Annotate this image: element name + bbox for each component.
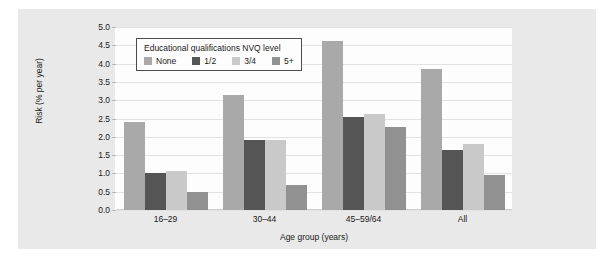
legend-item[interactable]: 5+ bbox=[272, 57, 294, 66]
y-axis-title: Risk (% per year) bbox=[34, 26, 44, 156]
legend-items: None1/23/45+ bbox=[144, 57, 294, 66]
bar[interactable] bbox=[223, 95, 244, 210]
legend-item-label: 5+ bbox=[284, 57, 294, 66]
y-axis-tick-label: 1.5 bbox=[84, 151, 110, 160]
bar-group bbox=[421, 27, 505, 210]
bar[interactable] bbox=[442, 150, 463, 210]
x-axis-tick-label: 30–44 bbox=[253, 214, 277, 224]
legend-item[interactable]: 3/4 bbox=[232, 57, 256, 66]
bar[interactable] bbox=[364, 114, 385, 210]
y-axis-tick-label: 5.0 bbox=[84, 23, 110, 32]
bar[interactable] bbox=[484, 175, 505, 211]
chart-figure: 5.04.54.03.53.02.52.01.51.00.50.0 Risk (… bbox=[0, 0, 613, 263]
y-axis-tick-label: 4.0 bbox=[84, 59, 110, 68]
y-axis-tick-label: 2.0 bbox=[84, 133, 110, 142]
bar[interactable] bbox=[463, 144, 484, 210]
bar[interactable] bbox=[385, 127, 406, 210]
legend-item-label: 1/2 bbox=[204, 57, 216, 66]
bar[interactable] bbox=[244, 140, 265, 210]
bar[interactable] bbox=[286, 185, 307, 210]
legend-item-label: None bbox=[156, 57, 176, 66]
y-axis-tick-labels: 5.04.54.03.53.02.52.01.51.00.50.0 bbox=[82, 27, 110, 210]
bar[interactable] bbox=[166, 171, 187, 210]
x-axis-tick-label: All bbox=[458, 214, 467, 224]
legend-swatch-icon bbox=[144, 57, 152, 65]
legend-swatch-icon bbox=[192, 57, 200, 65]
legend-swatch-icon bbox=[232, 57, 240, 65]
y-axis-tick-label: 2.5 bbox=[84, 114, 110, 123]
bar-group bbox=[322, 27, 406, 210]
x-axis-tick-labels: 16–2930–4445–59/64All bbox=[116, 214, 512, 228]
bar[interactable] bbox=[187, 192, 208, 210]
x-axis-title: Age group (years) bbox=[116, 232, 512, 242]
y-axis-tick-label: 1.0 bbox=[84, 169, 110, 178]
x-axis-tick-label: 16–29 bbox=[154, 214, 178, 224]
y-axis-tick-label: 0.0 bbox=[84, 206, 110, 215]
chart-legend: Educational qualifications NVQ level Non… bbox=[136, 38, 302, 71]
x-axis-tick-label: 45–59/64 bbox=[346, 214, 381, 224]
y-axis-tick-mark bbox=[112, 210, 116, 211]
y-axis-tick-label: 0.5 bbox=[84, 187, 110, 196]
legend-item[interactable]: None bbox=[144, 57, 176, 66]
bar[interactable] bbox=[265, 140, 286, 210]
bar[interactable] bbox=[124, 122, 145, 210]
y-axis-tick-label: 3.5 bbox=[84, 78, 110, 87]
bar[interactable] bbox=[343, 117, 364, 210]
bar[interactable] bbox=[145, 173, 166, 210]
legend-item[interactable]: 1/2 bbox=[192, 57, 216, 66]
y-axis-tick-label: 4.5 bbox=[84, 41, 110, 50]
bar[interactable] bbox=[421, 69, 442, 210]
legend-item-label: 3/4 bbox=[244, 57, 256, 66]
gridline bbox=[116, 210, 512, 211]
bar[interactable] bbox=[322, 41, 343, 210]
legend-title: Educational qualifications NVQ level bbox=[144, 43, 294, 53]
legend-swatch-icon bbox=[272, 57, 280, 65]
y-axis-tick-label: 3.0 bbox=[84, 96, 110, 105]
